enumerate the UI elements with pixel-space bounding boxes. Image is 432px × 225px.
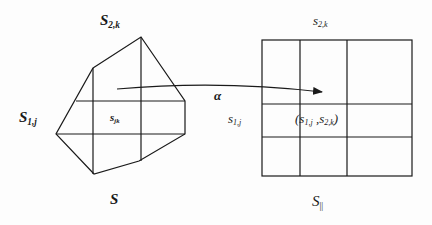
label-sjk: sjk <box>110 112 120 125</box>
grid-outline <box>262 40 412 176</box>
polygon-outline <box>56 37 185 174</box>
label-s2k-left: S2,k <box>100 13 120 30</box>
region-s-polygon <box>56 37 185 174</box>
label-s1j-left: S1,j <box>19 110 37 127</box>
region-s-parallel-grid <box>262 40 412 176</box>
label-s-parallel: S|| <box>312 194 323 211</box>
label-s2k-right: s2,k <box>313 14 328 29</box>
label-alpha: α <box>214 89 221 102</box>
diagram-canvas: S2,k S1,j sjk S α s2,k s1,j (s1,j ,s2,k)… <box>0 0 432 225</box>
label-s1j-right: s1,j <box>228 112 241 127</box>
diagram-lines <box>0 0 432 225</box>
label-cell-pair: (s1,j ,s2,k) <box>295 112 338 127</box>
label-s-region: S <box>110 192 118 207</box>
